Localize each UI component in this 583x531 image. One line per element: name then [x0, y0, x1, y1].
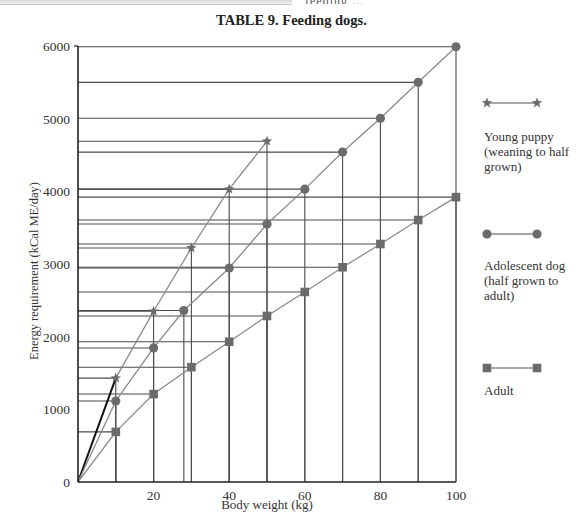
square-marker-icon [338, 263, 347, 272]
y-tick-label: 3000 [43, 257, 70, 272]
x-tick-label: 80 [374, 488, 388, 503]
circle-marker-icon [338, 147, 347, 156]
legend-label-adult: Adult [484, 383, 582, 398]
square-marker-icon [483, 364, 492, 373]
x-tick-label: 20 [147, 488, 161, 503]
y-tick-label: 6000 [43, 39, 70, 54]
series-line-square [116, 197, 456, 432]
star-marker-icon [532, 98, 542, 108]
x-axis-label: Body weight (kg) [221, 497, 313, 513]
circle-marker-icon [451, 42, 460, 51]
circle-marker-icon [300, 185, 309, 194]
origin-segment [78, 432, 116, 482]
square-marker-icon [376, 240, 385, 249]
square-marker-icon [187, 363, 196, 372]
circle-marker-icon [225, 263, 234, 272]
y-tick-label: 2000 [43, 330, 70, 345]
y-tick-label: 1000 [43, 402, 70, 417]
x-tick-label: 100 [446, 488, 467, 503]
square-marker-icon [263, 312, 272, 321]
y-tick-label: 5000 [43, 112, 70, 127]
circle-marker-icon [414, 78, 423, 87]
square-marker-icon [301, 288, 310, 297]
tick-labels: 010002000300040005000600020406080100 [43, 39, 466, 503]
y-tick-label: 4000 [43, 184, 70, 199]
square-marker-icon [112, 428, 121, 437]
square-marker-icon [452, 193, 461, 202]
circle-marker-icon [262, 219, 271, 228]
square-marker-icon [533, 364, 542, 373]
drop-lines [78, 47, 456, 482]
circle-marker-icon [179, 306, 188, 315]
y-axis-label: Energy requirement (kCal ME/day) [27, 182, 42, 360]
legend-label-adolescent: Adolescent dog (half grown to adult) [484, 258, 582, 303]
square-marker-icon [414, 216, 423, 225]
circle-marker-icon [149, 343, 158, 352]
square-marker-icon [149, 390, 158, 399]
circle-marker-icon [111, 396, 120, 405]
circle-marker-icon [532, 229, 541, 238]
circle-marker-icon [482, 229, 491, 238]
legend-label-young-puppy: Young puppy (weaning to half grown) [484, 129, 582, 174]
circle-marker-icon [376, 114, 385, 123]
origin-segment [78, 401, 116, 482]
star-marker-icon [482, 98, 492, 108]
square-marker-icon [225, 337, 234, 346]
data-markers [111, 42, 461, 436]
y-tick-label: 0 [63, 475, 70, 490]
